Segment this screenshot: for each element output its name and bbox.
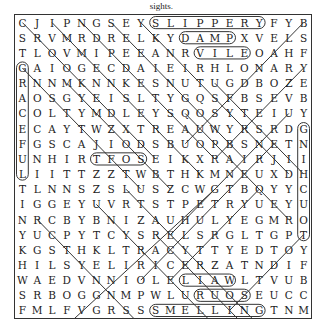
grid-cell[interactable]: P xyxy=(207,15,222,30)
grid-cell[interactable]: C xyxy=(59,136,74,151)
grid-cell[interactable]: S xyxy=(59,257,74,272)
grid-cell[interactable]: D xyxy=(178,30,193,45)
grid-cell[interactable]: S xyxy=(148,303,163,318)
grid-cell[interactable]: N xyxy=(30,151,45,166)
grid-cell[interactable]: P xyxy=(178,197,193,212)
grid-cell[interactable]: N xyxy=(104,273,119,288)
grid-cell[interactable]: T xyxy=(267,303,282,318)
grid-cell[interactable]: N xyxy=(104,212,119,227)
grid-cell[interactable]: F xyxy=(296,257,311,272)
grid-cell[interactable]: S xyxy=(15,30,30,45)
grid-cell[interactable]: P xyxy=(281,227,296,242)
grid-cell[interactable]: M xyxy=(59,76,74,91)
grid-cell[interactable]: E xyxy=(252,288,267,303)
grid-cell[interactable]: O xyxy=(237,60,252,75)
grid-cell[interactable]: G xyxy=(252,212,267,227)
grid-cell[interactable]: R xyxy=(104,303,119,318)
grid-cell[interactable]: Y xyxy=(281,15,296,30)
grid-cell[interactable]: G xyxy=(74,288,89,303)
grid-cell[interactable]: B xyxy=(45,288,60,303)
grid-cell[interactable]: U xyxy=(30,227,45,242)
grid-cell[interactable]: L xyxy=(30,45,45,60)
grid-cell[interactable]: Y xyxy=(163,91,178,106)
grid-cell[interactable]: R xyxy=(133,242,148,257)
grid-cell[interactable]: B xyxy=(163,136,178,151)
grid-cell[interactable]: V xyxy=(59,45,74,60)
grid-cell[interactable]: B xyxy=(237,182,252,197)
grid-cell[interactable]: Q xyxy=(193,91,208,106)
grid-cell[interactable]: G xyxy=(15,60,30,75)
grid-cell[interactable]: D xyxy=(133,136,148,151)
grid-cell[interactable]: I xyxy=(281,257,296,272)
grid-cell[interactable]: T xyxy=(193,242,208,257)
grid-cell[interactable]: I xyxy=(30,166,45,181)
grid-cell[interactable]: R xyxy=(30,212,45,227)
grid-cell[interactable]: G xyxy=(89,303,104,318)
grid-cell[interactable]: I xyxy=(296,151,311,166)
grid-cell[interactable]: L xyxy=(45,303,60,318)
grid-cell[interactable]: R xyxy=(178,45,193,60)
grid-cell[interactable]: Y xyxy=(74,227,89,242)
grid-cell[interactable]: L xyxy=(45,257,60,272)
grid-cell[interactable]: G xyxy=(89,288,104,303)
grid-cell[interactable]: S xyxy=(148,197,163,212)
grid-cell[interactable]: T xyxy=(252,227,267,242)
grid-cell[interactable]: Y xyxy=(281,182,296,197)
grid-cell[interactable]: S xyxy=(104,15,119,30)
grid-cell[interactable]: W xyxy=(207,121,222,136)
grid-cell[interactable]: Q xyxy=(178,106,193,121)
grid-cell[interactable]: Y xyxy=(74,197,89,212)
grid-cell[interactable]: N xyxy=(222,166,237,181)
grid-cell[interactable]: T xyxy=(267,242,282,257)
grid-cell[interactable]: S xyxy=(104,182,119,197)
grid-cell[interactable]: N xyxy=(45,182,60,197)
grid-cell[interactable]: E xyxy=(148,151,163,166)
grid-cell[interactable]: T xyxy=(207,242,222,257)
grid-cell[interactable]: K xyxy=(178,151,193,166)
grid-cell[interactable]: O xyxy=(296,212,311,227)
grid-cell[interactable]: J xyxy=(89,136,104,151)
grid-cell[interactable]: N xyxy=(89,76,104,91)
grid-cell[interactable]: S xyxy=(133,151,148,166)
grid-cell[interactable]: Z xyxy=(104,121,119,136)
grid-cell[interactable]: S xyxy=(252,121,267,136)
grid-cell[interactable]: T xyxy=(222,182,237,197)
grid-cell[interactable]: L xyxy=(15,166,30,181)
grid-cell[interactable]: I xyxy=(281,151,296,166)
grid-cell[interactable]: I xyxy=(30,257,45,272)
grid-cell[interactable]: D xyxy=(281,166,296,181)
grid-cell[interactable]: C xyxy=(296,182,311,197)
grid-cell[interactable]: N xyxy=(252,257,267,272)
grid-cell[interactable]: I xyxy=(222,303,237,318)
grid-cell[interactable]: E xyxy=(163,121,178,136)
grid-cell[interactable]: T xyxy=(237,106,252,121)
grid-cell[interactable]: S xyxy=(237,288,252,303)
grid-cell[interactable]: D xyxy=(281,121,296,136)
grid-cell[interactable]: G xyxy=(267,227,282,242)
grid-cell[interactable]: R xyxy=(104,30,119,45)
grid-cell[interactable]: R xyxy=(15,76,30,91)
grid-cell[interactable]: S xyxy=(163,106,178,121)
grid-cell[interactable]: M xyxy=(119,288,134,303)
grid-cell[interactable]: T xyxy=(15,45,30,60)
grid-cell[interactable]: E xyxy=(59,197,74,212)
grid-cell[interactable]: P xyxy=(104,45,119,60)
grid-cell[interactable]: A xyxy=(45,121,60,136)
grid-cell[interactable]: W xyxy=(133,166,148,181)
grid-cell[interactable]: N xyxy=(163,76,178,91)
grid-cell[interactable]: Y xyxy=(222,121,237,136)
grid-cell[interactable]: E xyxy=(267,30,282,45)
grid-cell[interactable]: L xyxy=(222,60,237,75)
grid-cell[interactable]: X xyxy=(193,151,208,166)
grid-cell[interactable]: S xyxy=(148,182,163,197)
grid-cell[interactable]: T xyxy=(252,273,267,288)
grid-cell[interactable]: T xyxy=(119,242,134,257)
grid-cell[interactable]: Y xyxy=(296,106,311,121)
grid-cell[interactable]: H xyxy=(45,151,60,166)
grid-cell[interactable]: C xyxy=(281,288,296,303)
grid-cell[interactable]: F xyxy=(104,151,119,166)
grid-cell[interactable]: N xyxy=(15,212,30,227)
grid-cell[interactable]: X xyxy=(237,30,252,45)
grid-cell[interactable]: I xyxy=(119,257,134,272)
grid-cell[interactable]: G xyxy=(207,182,222,197)
